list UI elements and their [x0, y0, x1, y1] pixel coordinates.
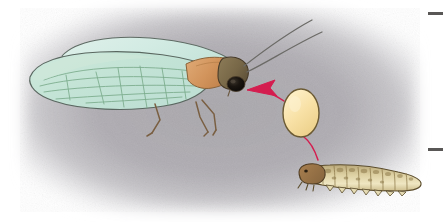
adult-eye	[227, 77, 245, 92]
larva-head	[299, 164, 325, 184]
illustration-figure	[0, 0, 446, 222]
caddisfly-illustration-canvas	[0, 0, 446, 222]
adult-forewing	[30, 52, 214, 110]
lower-edge-dash	[428, 148, 443, 151]
egg	[283, 89, 319, 137]
upper-edge-dash	[428, 12, 443, 15]
